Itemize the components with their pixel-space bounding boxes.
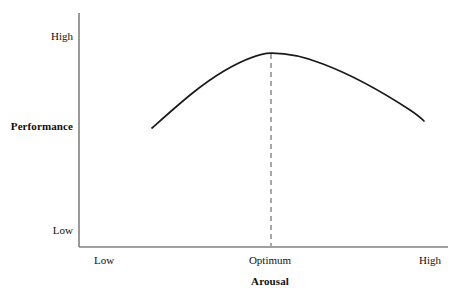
x-axis-title: Arousal (251, 276, 289, 287)
chart-figure: High Low Performance Low Optimum High Ar… (0, 0, 462, 296)
y-axis-title: Performance (11, 121, 73, 132)
performance-arousal-plot (0, 0, 462, 296)
y-tick-label-low: Low (53, 225, 73, 236)
x-tick-label-optimum: Optimum (249, 255, 291, 266)
y-tick-label-high: High (51, 31, 73, 42)
performance-curve (152, 53, 424, 128)
x-tick-label-high: High (419, 255, 441, 266)
x-tick-label-low: Low (94, 255, 114, 266)
